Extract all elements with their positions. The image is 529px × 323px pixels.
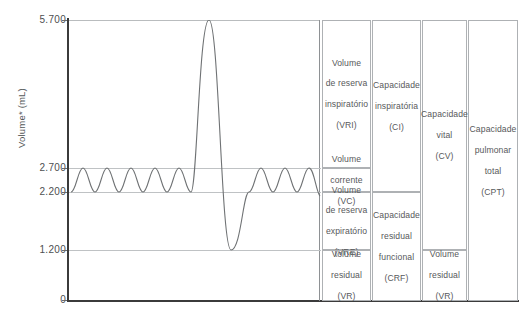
lung-volumes-spirogram-figure: Volume* (mL) 5.700 2.700 2.200 1.200 0 V… bbox=[0, 0, 529, 323]
vre-line-3: expiratório bbox=[325, 226, 369, 236]
vri-line-1: Volume bbox=[324, 58, 369, 68]
ci-line-3: (CI) bbox=[372, 122, 421, 132]
vri-line-2: de reserva bbox=[324, 78, 369, 88]
crf-line-1: Capacidade bbox=[372, 210, 421, 220]
ci-line-1: Capacidade bbox=[372, 80, 421, 90]
vr2-line-3: (VR) bbox=[428, 291, 461, 301]
vr2-line-1: Volume bbox=[428, 249, 461, 259]
cpt-line-3: total bbox=[469, 166, 518, 176]
crf-line-4: (CRF) bbox=[372, 273, 421, 283]
legend-box-cpt: Capacidade pulmonar total (CPT) bbox=[468, 20, 518, 301]
legend-box-vre: Volume de reserva expiratório (VRE) bbox=[322, 192, 371, 250]
legend-box-crf: Capacidade residual funcional (CRF) bbox=[372, 192, 421, 301]
cv-line-2: vital bbox=[420, 130, 469, 140]
vre-line-1: Volume bbox=[325, 185, 369, 195]
ci-line-2: inspiratória bbox=[372, 101, 421, 111]
vri-line-3: inspiratório bbox=[324, 99, 369, 109]
cpt-line-1: Capacidade bbox=[469, 124, 518, 134]
crf-line-2: residual bbox=[372, 231, 421, 241]
legend-box-vr: Volume residual (VR) bbox=[322, 250, 371, 301]
cpt-line-2: pulmonar bbox=[469, 145, 518, 155]
crf-line-3: funcional bbox=[372, 252, 421, 262]
vr-line-3: (VR) bbox=[330, 291, 363, 301]
legend-box-vri: Volume de reserva inspiratório (VRI) bbox=[322, 20, 371, 168]
cv-line-3: (CV) bbox=[420, 151, 469, 161]
legend-box-vr-2: Volume residual (VR) bbox=[422, 250, 467, 301]
legend-box-cv: Capacidade vital (CV) bbox=[422, 20, 467, 250]
cv-line-1: Capacidade bbox=[420, 109, 469, 119]
legend-box-ci: Capacidade inspiratória (CI) bbox=[372, 20, 421, 192]
vr2-line-2: residual bbox=[428, 270, 461, 280]
legend-columns: Volume de reserva inspiratório (VRI) Vol… bbox=[0, 0, 529, 323]
vre-line-2: de reserva bbox=[325, 205, 369, 215]
vr-line-1: Volume bbox=[330, 249, 363, 259]
vc-line-1: Volume bbox=[329, 154, 363, 164]
cpt-line-4: (CPT) bbox=[469, 187, 518, 197]
vr-line-2: residual bbox=[330, 270, 363, 280]
vri-line-4: (VRI) bbox=[324, 120, 369, 130]
